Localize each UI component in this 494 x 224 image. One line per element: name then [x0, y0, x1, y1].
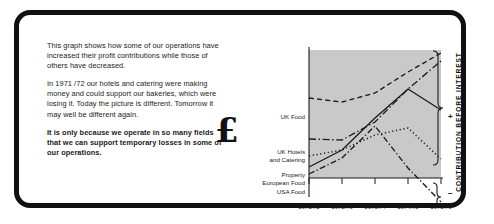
series-label-uk-hotels-1: UK Hotels — [277, 148, 305, 156]
series-label-group: UK Food UK Hotels and Catering Property … — [225, 45, 305, 195]
x-tick-1972-73: 1972/73 — [331, 204, 352, 210]
y-axis-title: CONTRIBUTION BEFORE INTEREST — [451, 47, 465, 197]
x-axis-labels: 1971/72 1972/73 1973/74 1974/75 1975/76 — [277, 204, 467, 216]
paragraph-2: In 1971 /72 our hotels and catering were… — [47, 79, 227, 119]
series-label-property: Property — [282, 171, 305, 179]
x-tick-1973-74: 1973/74 — [364, 204, 385, 210]
y-axis-title-text: CONTRIBUTION BEFORE INTEREST — [455, 52, 462, 192]
axis-brace-group — [431, 45, 449, 205]
paragraph-3: It is only because we operate in so many… — [47, 128, 227, 158]
negative-brace — [433, 183, 441, 205]
poster-frame: This graph shows how some of our operati… — [14, 10, 466, 208]
series-label-uk-food: UK Food — [281, 113, 305, 121]
x-tick-1974-75: 1974/75 — [397, 204, 418, 210]
description-text-column: This graph shows how some of our operati… — [47, 41, 227, 158]
series-label-uk-hotels-2: and Catering — [270, 156, 305, 164]
x-tick-1971-72: 1971/72 — [298, 204, 319, 210]
positive-region-shading — [309, 50, 441, 178]
series-label-usa-food: USA Food — [277, 188, 305, 196]
paragraph-1: This graph shows how some of our operati… — [47, 41, 227, 71]
positive-brace — [433, 51, 443, 165]
chart-plot-area — [305, 45, 447, 195]
series-label-european-food: European Food — [262, 179, 305, 187]
chart-svg — [305, 45, 447, 205]
